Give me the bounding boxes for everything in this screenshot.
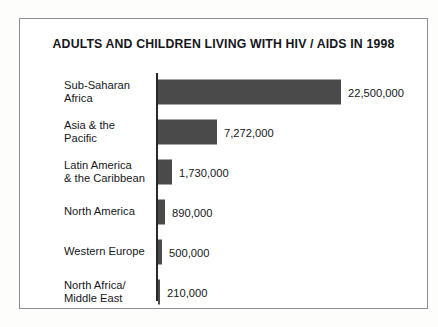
bar-rect xyxy=(158,120,217,145)
bar-value-label: 1,730,000 xyxy=(179,166,229,178)
bar-rect xyxy=(158,280,160,305)
bar-value-label: 890,000 xyxy=(172,206,212,218)
bar-track: 1,730,000 xyxy=(158,160,229,185)
bar-value-label: 7,272,000 xyxy=(224,126,274,138)
bar-value-label: 22,500,000 xyxy=(348,86,404,98)
bar-row: North America 890,000 xyxy=(20,193,429,231)
bar-value-label: 210,000 xyxy=(167,286,207,298)
bar-row: Latin America & the Caribbean 1,730,000 xyxy=(20,153,429,191)
bar-track: 890,000 xyxy=(158,200,212,225)
bar-track: 210,000 xyxy=(158,280,207,305)
bar-rect xyxy=(158,240,162,265)
chart-frame: ADULTS AND CHILDREN LIVING WITH HIV / AI… xyxy=(19,18,428,309)
bar-row: Sub-Saharan Africa 22,500,000 xyxy=(20,73,429,111)
bar-row: North Africa/ Middle East 210,000 xyxy=(20,273,429,311)
bar-rect xyxy=(158,80,341,105)
bar-value-label: 500,000 xyxy=(169,246,209,258)
bar-track: 7,272,000 xyxy=(158,120,274,145)
bar-row: Western Europe 500,000 xyxy=(20,233,429,271)
bar-track: 22,500,000 xyxy=(158,80,404,105)
chart-title: ADULTS AND CHILDREN LIVING WITH HIV / AI… xyxy=(20,37,427,51)
bar-rect xyxy=(158,200,165,225)
bar-row: Asia & the Pacific 7,272,000 xyxy=(20,113,429,151)
bar-rect xyxy=(158,160,172,185)
bar-track: 500,000 xyxy=(158,240,209,265)
plot-area: Sub-Saharan Africa 22,500,000 Asia & the… xyxy=(20,73,429,309)
